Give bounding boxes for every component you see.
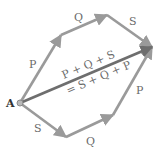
label-q-bottom: Q [86, 135, 95, 147]
origin-label: A [5, 97, 15, 110]
resultant-vector [20, 47, 152, 103]
vector-s-bottom [20, 103, 66, 137]
label-p-top: P [29, 58, 37, 71]
label-p-bottom: P [136, 84, 144, 97]
origin-point [17, 100, 23, 106]
label-s-top: S [129, 15, 137, 28]
label-s-bottom: S [34, 122, 42, 135]
label-q-top: Q [74, 11, 83, 24]
vector-q-bottom [66, 115, 113, 137]
vector-q-top [61, 15, 107, 35]
vector-p-bottom [113, 47, 152, 115]
vector-addition-diagram: A P Q S S Q P P + Q + S = S + Q + P [0, 0, 159, 147]
